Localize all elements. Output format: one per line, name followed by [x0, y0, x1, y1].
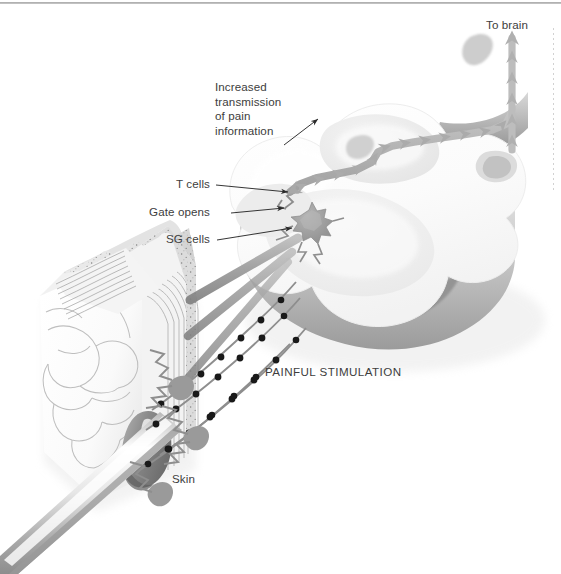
label-to-brain: To brain	[486, 18, 528, 33]
label-increased-transmission: Increased transmission of pain informati…	[215, 80, 281, 138]
upper-rootlet	[462, 34, 493, 65]
figure-canvas: To brain Increased transmission of pain …	[0, 0, 561, 574]
label-gate-opens: Gate opens	[95, 205, 210, 220]
label-skin: Skin	[172, 472, 195, 487]
skin-cross-section	[0, 220, 198, 574]
label-sg-cells: SG cells	[110, 232, 210, 247]
label-painful-stimulation: PAINFUL STIMULATION	[265, 365, 402, 380]
label-t-cells: T cells	[110, 177, 210, 192]
